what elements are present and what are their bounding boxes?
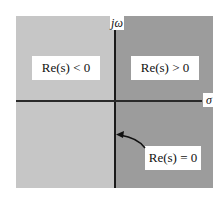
imaginary-axis [114, 26, 116, 188]
right-half-plane-label: Re(s) > 0 [131, 56, 199, 80]
imaginary-axis-label: jω [110, 16, 124, 30]
left-half-plane-label: Re(s) < 0 [32, 56, 100, 80]
real-axis-label: σ [203, 93, 215, 107]
real-axis [16, 100, 202, 102]
imaginary-axis-annotation: Re(s) = 0 [145, 146, 201, 170]
s-plane: jω σ Re(s) < 0 Re(s) > 0 Re(s) = 0 [16, 16, 213, 188]
left-half-plane [16, 16, 115, 188]
